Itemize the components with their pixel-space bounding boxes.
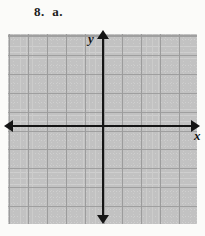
y-axis-up-arrow-icon [97,30,109,39]
worksheet-page: 8. a. y x [0,0,205,236]
problem-number-label: 8. a. [34,4,63,20]
y-axis-down-arrow-icon [97,215,109,224]
x-axis-label: x [194,129,201,142]
y-axis-line [102,36,104,218]
coordinate-plane: y x [8,34,197,224]
x-axis-left-arrow-icon [4,120,13,132]
y-axis-label: y [88,32,94,45]
